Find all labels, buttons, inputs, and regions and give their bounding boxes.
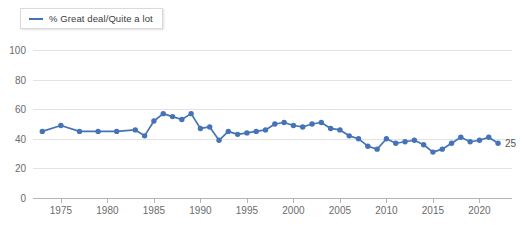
data-point [235, 132, 240, 137]
data-point [384, 136, 389, 141]
x-tick-mark-1980 [107, 198, 108, 203]
y-tick-label-40: 40 [15, 133, 26, 144]
data-point [77, 129, 82, 134]
x-tick-label-1980: 1980 [96, 205, 118, 216]
x-tick-label-2000: 2000 [282, 205, 304, 216]
data-point [449, 141, 454, 146]
data-point [188, 111, 193, 116]
data-point [402, 139, 407, 144]
data-point [161, 111, 166, 116]
x-tick-mark-1975 [61, 198, 62, 203]
data-point [254, 129, 259, 134]
data-point [430, 149, 435, 154]
x-tick-mark-2010 [386, 198, 387, 203]
legend-label: % Great deal/Quite a lot [49, 13, 153, 24]
series-line-chart [33, 50, 512, 198]
x-tick-label-1985: 1985 [143, 205, 165, 216]
data-point [319, 120, 324, 125]
data-point [58, 123, 63, 128]
data-point [291, 123, 296, 128]
x-tick-mark-2015 [433, 198, 434, 203]
data-point [179, 117, 184, 122]
end-value-label: 25 [505, 138, 516, 149]
data-point [216, 138, 221, 143]
data-point [142, 133, 147, 138]
data-point [337, 127, 342, 132]
data-point [309, 121, 314, 126]
data-point [477, 138, 482, 143]
confidence-trend-chart: % Great deal/Quite a lot 020406080100 25… [0, 0, 524, 225]
data-point [347, 133, 352, 138]
x-tick-label-2015: 2015 [422, 205, 444, 216]
data-point [40, 129, 45, 134]
data-point [495, 141, 500, 146]
x-tick-mark-2005 [340, 198, 341, 203]
y-tick-label-60: 60 [15, 104, 26, 115]
data-point [151, 118, 156, 123]
data-point [486, 135, 491, 140]
legend-line-marker-icon [29, 18, 43, 20]
data-point [374, 146, 379, 151]
data-point [133, 127, 138, 132]
y-tick-label-100: 100 [9, 45, 26, 56]
data-point [263, 127, 268, 132]
x-tick-mark-2000 [293, 198, 294, 203]
x-tick-mark-1995 [247, 198, 248, 203]
data-point [281, 120, 286, 125]
x-tick-label-1990: 1990 [189, 205, 211, 216]
x-axis: 1975198019851990199520002005201020152020 [33, 198, 512, 224]
data-point [458, 135, 463, 140]
data-point [272, 121, 277, 126]
data-point [421, 142, 426, 147]
data-point [114, 129, 119, 134]
y-tick-label-20: 20 [15, 163, 26, 174]
data-point [440, 146, 445, 151]
data-point [467, 139, 472, 144]
data-point [244, 130, 249, 135]
x-tick-label-2010: 2010 [375, 205, 397, 216]
data-point [356, 136, 361, 141]
series-line [42, 114, 498, 152]
x-tick-label-2005: 2005 [329, 205, 351, 216]
x-tick-label-1995: 1995 [236, 205, 258, 216]
chart-legend: % Great deal/Quite a lot [20, 8, 163, 29]
data-point [393, 141, 398, 146]
plot-area: 020406080100 [33, 50, 512, 198]
data-point [170, 114, 175, 119]
data-point [365, 144, 370, 149]
x-tick-label-1975: 1975 [50, 205, 72, 216]
data-point [300, 124, 305, 129]
data-point [412, 138, 417, 143]
data-point [226, 129, 231, 134]
series-markers [40, 111, 501, 155]
y-tick-label-80: 80 [15, 74, 26, 85]
x-tick-mark-2020 [479, 198, 480, 203]
y-tick-label-0: 0 [20, 193, 26, 204]
x-tick-label-2020: 2020 [468, 205, 490, 216]
data-point [95, 129, 100, 134]
data-point [328, 126, 333, 131]
data-point [207, 124, 212, 129]
data-point [198, 126, 203, 131]
x-tick-mark-1990 [200, 198, 201, 203]
x-tick-mark-1985 [154, 198, 155, 203]
